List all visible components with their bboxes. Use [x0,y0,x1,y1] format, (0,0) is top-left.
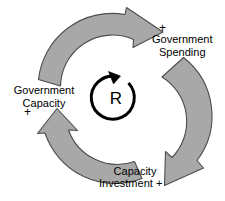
node-label-capacity-investment-line2: Investment [99,177,153,189]
node-label-government-spending: Government Spending [152,33,213,58]
node-label-government-spending-line2: Spending [152,46,213,59]
causal-loop-diagram: R + Government Spending Government Capac… [0,0,225,201]
reinforcing-loop-marker: R [91,72,134,120]
node-label-government-spending-line1: Government [152,33,213,46]
arrow-right [162,58,212,186]
node-label-government-capacity: Government Capacity [8,84,80,109]
node-label-capacity-investment-line1: Capacity [109,165,161,178]
polarity-sign-government-capacity: + [24,106,31,118]
polarity-sign-capacity-investment: + [156,177,162,189]
node-label-government-capacity-line2: Capacity [8,97,80,110]
node-label-capacity-investment: Investment + [99,177,162,190]
loop-marker-letter: R [110,89,122,108]
arrow-top [39,8,164,87]
node-label-government-capacity-line1: Government [8,84,80,97]
